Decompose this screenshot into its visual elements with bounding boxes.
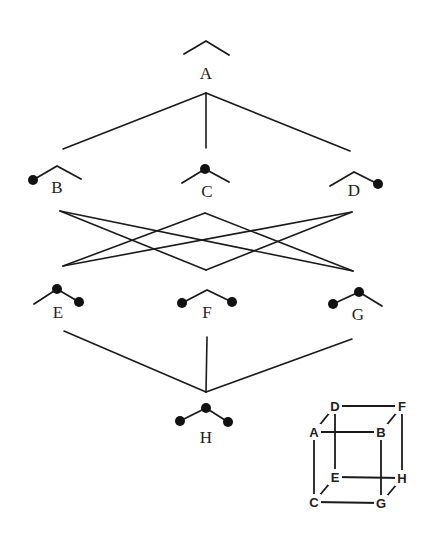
node-label: F (202, 303, 211, 322)
node-h: H (175, 403, 233, 447)
node-label: A (200, 64, 213, 83)
node-a: A (184, 41, 229, 83)
occupied-site-dot (328, 299, 338, 309)
occupied-site-dot (177, 298, 187, 308)
occupied-site-dot (373, 179, 383, 189)
cube-vertex-f: F (398, 399, 406, 414)
node-c: C (182, 164, 229, 201)
inset-cube: ABCGDFEH (307, 398, 409, 511)
occupied-site-dot (175, 416, 185, 426)
cube-edge-c-g (314, 502, 381, 503)
cube-vertex-h: H (397, 471, 406, 486)
node-label: G (352, 305, 364, 324)
cube-vertex-d: D (330, 399, 339, 414)
edge-a-b (63, 93, 206, 149)
node-label: C (201, 182, 212, 201)
edge-g-h (206, 339, 352, 392)
lattice-diagram: ABCDEFGH ABCGDFEH (0, 0, 434, 539)
node-label: B (51, 178, 62, 197)
node-d: D (330, 172, 383, 200)
occupied-site-dot (200, 164, 210, 174)
cube-vertex-e: E (331, 470, 340, 485)
cube-vertex-b: B (376, 425, 385, 440)
cube-vertex-c: C (309, 495, 319, 510)
occupied-site-dot (74, 297, 84, 307)
occupied-site-dot (28, 175, 38, 185)
cube-vertex-g: G (376, 496, 386, 511)
edge-a-d (206, 93, 350, 151)
node-label: H (200, 428, 212, 447)
lattice-edges (60, 93, 353, 392)
node-g: G (328, 287, 382, 324)
edge-f-h (206, 337, 207, 392)
cube-vertex-a: A (309, 425, 319, 440)
state-glyph (182, 290, 232, 303)
occupied-site-dot (201, 403, 211, 413)
edge-e-h (64, 331, 206, 392)
node-label: E (53, 303, 63, 322)
node-f: F (177, 290, 237, 322)
state-glyph (184, 41, 229, 55)
node-e: E (34, 284, 84, 322)
cube-edge-e-h (335, 477, 402, 478)
node-label: D (348, 181, 360, 200)
occupied-site-dot (52, 284, 62, 294)
occupied-site-dot (227, 297, 237, 307)
node-b: B (28, 166, 81, 197)
occupied-site-dot (223, 417, 233, 427)
occupied-site-dot (354, 287, 364, 297)
